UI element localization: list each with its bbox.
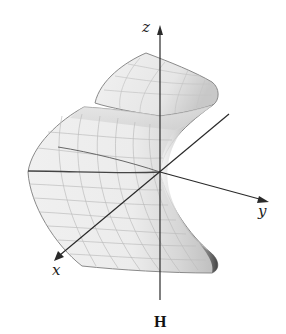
surface-back-sheet bbox=[95, 53, 218, 117]
surface-front-sheet bbox=[28, 105, 218, 273]
y-axis bbox=[160, 172, 263, 200]
x-axis-label: x bbox=[52, 263, 60, 278]
z-axis-arrowhead-icon bbox=[157, 25, 163, 35]
figure-caption: H bbox=[154, 314, 166, 330]
y-axis-label: y bbox=[258, 204, 266, 219]
surface-diagram bbox=[0, 0, 286, 334]
z-axis-label: z bbox=[142, 20, 150, 35]
saddle-surface-figure: z y x H bbox=[0, 0, 286, 334]
